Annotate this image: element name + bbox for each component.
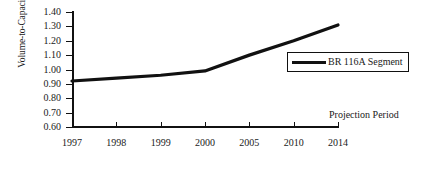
x-axis-tick [116, 122, 117, 128]
x-axis-tick-label: 1997 [50, 136, 94, 149]
x-axis-tick-label: 1998 [94, 136, 138, 149]
x-axis-tick [72, 122, 73, 128]
y-axis-tick: 1.10 [66, 55, 72, 56]
y-axis-tick-label: 1.00 [44, 63, 67, 76]
y-axis-tick: 0.80 [66, 98, 72, 99]
chart-figure: Volume-to-Capacity Ratio 1.401.301.201.1… [0, 0, 426, 170]
legend-label: BR 116A Segment [328, 56, 403, 68]
y-axis-tick-label: 1.30 [44, 19, 67, 32]
x-axis-tick [161, 122, 162, 128]
y-axis-tick-label: 0.80 [44, 91, 67, 104]
x-axis-tick-label: 1999 [139, 136, 183, 149]
y-axis-tick: 1.30 [66, 26, 72, 27]
x-axis-tick-label: 2000 [183, 136, 227, 149]
x-axis-tick [205, 122, 206, 128]
x-axis-tick-label: 2005 [227, 136, 271, 149]
chart-legend: BR 116A Segment [287, 52, 409, 72]
y-axis-tick-label: 0.90 [44, 77, 67, 90]
legend-line-swatch [292, 61, 326, 64]
y-axis-tick-label: 1.10 [44, 48, 67, 61]
y-axis-title: Volume-to-Capacity Ratio [15, 0, 29, 79]
y-axis-tick-label: 1.20 [44, 34, 67, 47]
y-axis-tick: 0.70 [66, 113, 72, 114]
y-axis-tick: 0.90 [66, 84, 72, 85]
x-axis-tick [338, 122, 339, 128]
y-axis-tick: 1.40 [66, 12, 72, 13]
y-axis-line [72, 11, 74, 128]
y-axis-tick: 1.20 [66, 41, 72, 42]
x-axis-tick [294, 122, 295, 128]
x-axis-tick-label: 2010 [272, 136, 316, 149]
projection-period-annotation: Projection Period [329, 108, 399, 121]
y-axis-tick-label: 0.70 [44, 106, 67, 119]
y-axis-tick-label: 1.40 [44, 5, 67, 18]
x-axis-tick [249, 122, 250, 128]
y-axis-tick-label: 0.60 [44, 120, 67, 133]
y-axis-tick: 1.00 [66, 70, 72, 71]
x-axis-tick-label: 2014 [316, 136, 360, 149]
